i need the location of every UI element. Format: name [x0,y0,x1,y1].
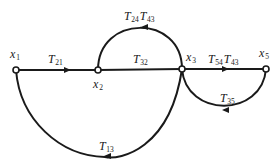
arrow-left-icon [141,24,148,30]
node-label-x1: x1 [9,47,20,62]
edge-label-t54-t43: T54T43 [208,52,239,67]
signal-flow-graph: x1 x2 x3 x5 T21 T32 T24T43 T54T43 T35 T1… [0,0,276,166]
node-x2 [95,67,101,73]
node-x3 [179,66,185,72]
edge-label-t24-t43: T24T43 [124,9,155,24]
node-label-x5: x5 [258,46,269,61]
arrow-left-icon [222,107,229,113]
edge-x2-x3 [98,69,182,70]
edge-label-t13: T13 [99,139,114,154]
arrow-right-icon [222,66,229,72]
node-x1 [13,67,19,73]
edge-label-t35: T35 [220,91,235,106]
node-x5 [263,66,269,72]
arrow-right-icon [64,67,71,73]
edge-label-t32: T32 [133,52,148,67]
node-label-x2: x2 [92,77,103,92]
node-label-x3: x3 [185,50,196,65]
edge-label-t21: T21 [48,52,63,67]
